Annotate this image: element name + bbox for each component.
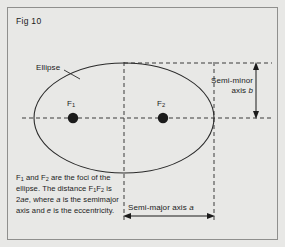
focus-2-subscript: 2 [162, 102, 165, 108]
semi-minor-line-1: Semi-minor [211, 76, 253, 85]
semi-minor-dimension-arrow [253, 62, 259, 119]
focus-1-label: F1 [67, 99, 75, 111]
focus-2-dot [158, 113, 168, 123]
semi-major-dimension-arrow [123, 213, 215, 219]
focus-1-dot [68, 113, 78, 123]
figure-container: Fig 10 Ellipse F1 F2 [0, 0, 285, 247]
caption-text: F1 and F2 are the foci of the ellipse. T… [16, 173, 119, 215]
semi-major-symbol: a [189, 203, 194, 212]
ellipse-label: Ellipse [36, 63, 60, 73]
semi-minor-symbol: b [248, 86, 253, 95]
figure-caption: F1 and F2 are the foci of the ellipse. T… [16, 173, 120, 216]
semi-minor-line-2: axis b [231, 86, 253, 95]
semi-minor-axis-label: Semi-minor axis b [209, 76, 253, 96]
focus-2-label: F2 [157, 99, 165, 111]
ellipse-label-leader-line [64, 70, 80, 79]
focus-1-subscript: 1 [72, 102, 75, 108]
semi-major-axis-label: Semi-major axis a [128, 203, 194, 213]
